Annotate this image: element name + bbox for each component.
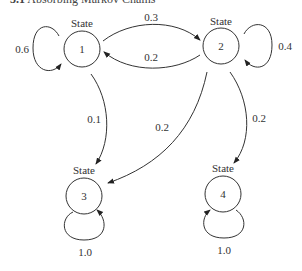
edge-2-3-label: 0.2 bbox=[155, 121, 169, 133]
state-3-number: 3 bbox=[81, 190, 87, 202]
state-4: State 4 bbox=[205, 162, 241, 212]
state-3: State 3 bbox=[66, 164, 102, 214]
state-2-number: 2 bbox=[218, 40, 224, 52]
state-1-number: 1 bbox=[79, 43, 85, 55]
edge-2-1-label: 0.2 bbox=[144, 51, 158, 63]
state-1: State 1 bbox=[64, 17, 100, 67]
edge-1-3-label: 0.1 bbox=[87, 113, 101, 125]
edge-2-2 bbox=[244, 25, 272, 68]
edge-3-3-label: 1.0 bbox=[78, 246, 92, 258]
edge-1-1 bbox=[33, 27, 61, 71]
state-4-caption: State bbox=[212, 162, 234, 174]
edge-1-2-label: 0.3 bbox=[144, 11, 158, 23]
edge-1-2 bbox=[103, 24, 200, 41]
edge-4-4-label: 1.0 bbox=[217, 244, 231, 256]
state-1-caption: State bbox=[71, 17, 93, 29]
edge-2-4-label: 0.2 bbox=[252, 112, 266, 124]
state-4-number: 4 bbox=[220, 188, 226, 200]
state-2-caption: State bbox=[210, 15, 232, 27]
markov-diagram: State 1 State 2 State 3 State 4 0.6 0.3 … bbox=[0, 0, 302, 271]
edge-2-2-label: 0.4 bbox=[278, 40, 292, 52]
edge-2-4 bbox=[230, 72, 247, 163]
edge-4-4 bbox=[204, 210, 244, 238]
edge-3-3 bbox=[64, 210, 104, 240]
state-2: State 2 bbox=[203, 15, 239, 64]
edge-1-1-label: 0.6 bbox=[15, 43, 29, 55]
state-3-caption: State bbox=[73, 164, 95, 176]
